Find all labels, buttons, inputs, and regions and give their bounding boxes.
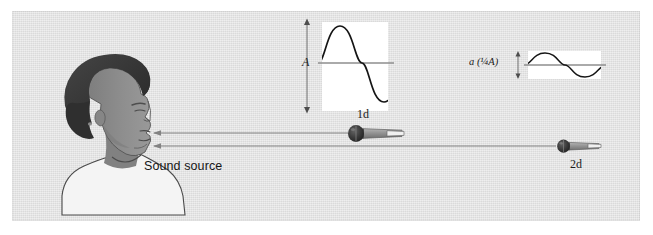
far-mic-highlight (560, 142, 563, 144)
near-mic-highlight (351, 128, 355, 131)
far-microphone (557, 140, 601, 153)
illustration-artboard (0, 0, 653, 235)
far-amplitude-label: a (¼A) (469, 57, 498, 68)
speaker-profile (62, 54, 185, 215)
ray-to-far-mic (153, 143, 556, 148)
figure-container: A a (¼A) 1d 2d Sound source (0, 0, 653, 235)
near-waveform (304, 19, 404, 114)
far-amplitude-arrow (516, 51, 521, 79)
near-mic-tip (387, 131, 404, 136)
near-amplitude-label: A (302, 56, 309, 68)
ray-to-near-mic (153, 130, 348, 135)
far-mic-tip (588, 144, 601, 148)
far-distance-label: 2d (570, 158, 582, 170)
near-microphone (348, 125, 404, 142)
hair-highlight (88, 122, 92, 126)
sound-source-label: Sound source (144, 160, 222, 173)
near-distance-label: 1d (357, 108, 369, 120)
far-waveform (516, 51, 607, 79)
ear (95, 110, 105, 126)
